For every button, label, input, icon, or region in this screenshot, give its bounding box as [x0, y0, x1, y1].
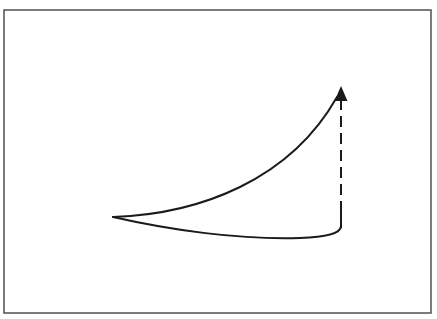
diagram-frame: [4, 10, 431, 313]
arrowhead-up-icon: [335, 86, 348, 101]
upper-curve: [113, 97, 337, 217]
diagram-canvas: [0, 0, 437, 319]
lower-curve: [113, 217, 341, 238]
